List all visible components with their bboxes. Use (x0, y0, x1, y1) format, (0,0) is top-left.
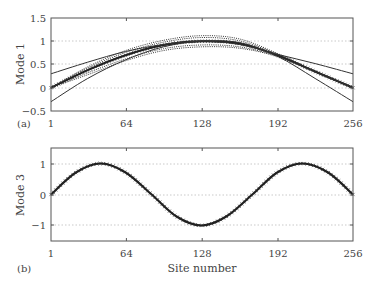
xticks-a (126, 18, 278, 111)
mode3-line (51, 164, 353, 226)
mode1-sample-2-line (51, 37, 353, 87)
ylabel-b: Mode 3 (14, 174, 27, 216)
ytick-label-b-1: 1 (40, 159, 46, 170)
ytick-label-a-0.5: 0.5 (30, 59, 46, 70)
xtick-label-a-128: 128 (193, 118, 212, 129)
mode1-curves (49, 36, 354, 102)
xlabel: Site number (168, 262, 238, 275)
figure: 1.5 1 0.5 0 −0.5 1 64 128 192 256 Mode 1… (0, 0, 375, 288)
ytick-label-b--1: −1 (31, 220, 46, 231)
ytick-label-a--0.5: −0.5 (22, 106, 46, 117)
xtick-label-b-64: 64 (120, 248, 133, 259)
panel-label-b: (b) (17, 263, 31, 274)
xtick-label-a-256: 256 (343, 118, 362, 129)
xtick-label-b-256: 256 (343, 248, 362, 259)
ylabel-a: Mode 1 (14, 43, 27, 85)
axes-b-frame (51, 148, 353, 241)
ytick-label-a-1: 1 (40, 36, 46, 47)
panel-b: 1 0 −1 1 64 128 192 256 Mode 3 Site numb… (14, 148, 363, 275)
mode3-curve (49, 162, 354, 227)
panel-a: 1.5 1 0.5 0 −0.5 1 64 128 192 256 Mode 1… (14, 13, 363, 130)
ytick-label-b-0: 0 (40, 190, 46, 201)
xtick-label-a-192: 192 (268, 118, 287, 129)
yticks-b (51, 164, 353, 225)
mode1-lower-bound-line (51, 41, 353, 102)
xtick-label-a-64: 64 (120, 118, 133, 129)
xtick-label-b-192: 192 (268, 248, 287, 259)
panel-label-a: (a) (17, 118, 31, 129)
ytick-label-a-0: 0 (40, 83, 46, 94)
xtick-label-b-1: 1 (48, 248, 54, 259)
xtick-label-a-1: 1 (48, 118, 54, 129)
ytick-label-a-1.5: 1.5 (30, 13, 46, 24)
xtick-label-b-128: 128 (193, 248, 212, 259)
